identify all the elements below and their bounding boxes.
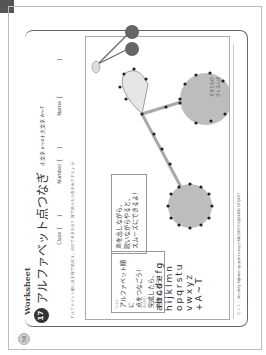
dot-to-dot-drawing bbox=[86, 37, 229, 319]
page-subtitle: 小文字 a～z＋大文字 A～T bbox=[38, 106, 45, 166]
instruction-text: アルファベット順に点を線で結ぼう。何ができるかな？ 線で結べたら色をぬりましょう… bbox=[70, 158, 75, 319]
number-field[interactable]: Number［ ］ bbox=[55, 144, 62, 184]
reference-label: できたもの さくらんぼ bbox=[210, 77, 222, 97]
hint-text: ヒント：abcdefg hijklmn opqrstu vwxyz ABCDEF… bbox=[236, 192, 241, 315]
name-field[interactable]: Name［ ］ bbox=[55, 56, 62, 116]
cherry-left bbox=[168, 184, 212, 228]
activity-area: じゅん アルファベット順に 点をつなごう！ かんせい 完成したら、 色をぬろう！… bbox=[85, 36, 230, 320]
hint-divider bbox=[233, 44, 234, 319]
worksheet-sheet: 58 Worksheet 17 アルファベット点つなぎ 小文字 a～z＋大文字 … bbox=[0, 0, 266, 355]
page-title: アルファベット点つなぎ bbox=[33, 172, 50, 304]
page-number: 58 bbox=[18, 333, 30, 345]
student-fields: Class［ ］ Number［ ］ Name［ ］ bbox=[55, 56, 62, 245]
class-field[interactable]: Class［ ］ bbox=[55, 212, 62, 245]
title-row: 17 アルファベット点つなぎ 小文字 a～z＋大文字 A～T bbox=[33, 106, 50, 323]
reference-label-line: さくらんぼ bbox=[216, 77, 222, 97]
worksheet-number-badge: 17 bbox=[34, 308, 49, 323]
reference-cherry-illustration bbox=[88, 24, 148, 79]
stem-line bbox=[142, 114, 182, 189]
